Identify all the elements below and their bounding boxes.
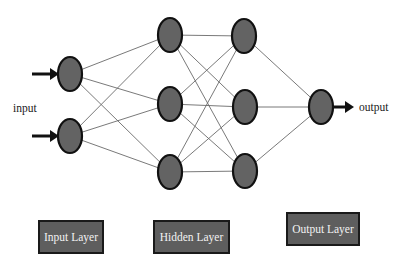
output-layer-box-label: Output Layer xyxy=(292,223,354,235)
output-label: output xyxy=(359,101,389,114)
output-layer-box: Output Layer xyxy=(286,212,360,246)
hidden1-node-1 xyxy=(158,18,182,52)
input-arrow-1 xyxy=(32,68,59,80)
input-layer-box-label: Input Layer xyxy=(44,231,98,243)
hidden2-node-1 xyxy=(232,19,256,53)
hidden2-node-3 xyxy=(233,154,257,188)
hidden-layer-2-nodes xyxy=(232,19,257,188)
output-arrow xyxy=(333,101,354,113)
edges-input-hidden1 xyxy=(70,35,170,172)
hidden2-node-2 xyxy=(233,90,257,124)
output-node-1 xyxy=(309,90,333,124)
input-arrow-2 xyxy=(32,130,59,142)
input-layer-nodes xyxy=(58,57,82,153)
hidden-layer-box: Hidden Layer xyxy=(153,220,230,254)
input-node-2 xyxy=(58,119,82,153)
input-layer-box: Input Layer xyxy=(38,220,104,254)
input-label: input xyxy=(13,102,37,115)
hidden1-node-2 xyxy=(158,87,182,121)
hidden-layer-box-label: Hidden Layer xyxy=(160,231,224,243)
hidden1-node-3 xyxy=(158,155,182,189)
hidden-layer-1-nodes xyxy=(158,18,182,189)
input-node-1 xyxy=(58,57,82,91)
output-layer-nodes xyxy=(309,90,333,124)
